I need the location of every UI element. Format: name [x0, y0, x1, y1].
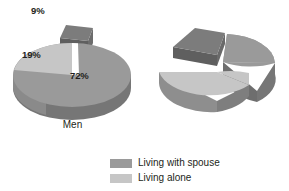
legend-label-living-with-spouse: Living with spouse [138, 157, 220, 169]
charts-row: 9% 19% 72% Men [0, 0, 289, 140]
men-slice-other-label: 9% [31, 6, 45, 16]
pie-chart-figure: 9% 19% 72% Men [0, 0, 289, 191]
men-slice-alone-label: 19% [22, 50, 41, 60]
legend-swatch-living-with-spouse [110, 159, 132, 168]
pie-chart-women: 19% 35% 46% Women [145, 0, 289, 140]
women-slice-spouse-top-fill [223, 34, 275, 63]
legend-swatch-living-alone [110, 174, 132, 183]
legend-label-living-alone: Living alone [138, 172, 191, 184]
pie-women-graphic [145, 0, 289, 140]
women-slice-spouse-side-r [257, 63, 276, 102]
pie-chart-men: 9% 19% 72% Men [0, 0, 145, 140]
men-slice-spouse-label: 72% [70, 71, 89, 81]
chart-legend: Living with spouse Living alone [110, 158, 289, 191]
men-category-label: Men [0, 120, 145, 130]
